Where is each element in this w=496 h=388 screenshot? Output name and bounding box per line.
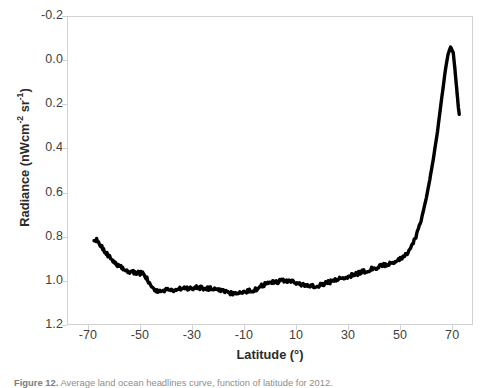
y-axis-title-end: ) [17, 88, 32, 92]
y-tick-label: 0.4 [5, 141, 63, 154]
x-tick-mark [348, 325, 349, 330]
y-tick-label: -0.2 [5, 9, 63, 22]
y-tick-label: 0.2 [5, 97, 63, 110]
y-axis-title-mid: sr [17, 100, 32, 116]
y-axis-title-main: Radiance (nWcm [17, 124, 32, 227]
x-tick-label: -50 [110, 328, 170, 342]
y-tick-label: 0.0 [5, 53, 63, 66]
y-tick-mark [62, 60, 67, 61]
x-axis-title: Latitude (°) [67, 347, 473, 362]
x-tick-mark [88, 325, 89, 330]
y-tick-mark [62, 281, 67, 282]
y-tick-mark [62, 16, 67, 17]
x-tick-mark [192, 325, 193, 330]
y-tick-mark [62, 237, 67, 238]
x-tick-mark [452, 325, 453, 330]
figure-caption-label: Figure 12. [14, 377, 58, 388]
y-tick-mark [62, 325, 67, 326]
y-tick-label: 1.0 [5, 274, 63, 287]
x-tick-mark [400, 325, 401, 330]
y-tick-label: 0.8 [5, 230, 63, 243]
y-axis-title-exponent-1: -2 [15, 116, 25, 124]
y-tick-label: 0.6 [5, 186, 63, 199]
y-axis-title-exponent-2: -1 [15, 93, 25, 101]
y-tick-mark [62, 104, 67, 105]
x-tick-label: 30 [318, 328, 378, 342]
radiance-curve-svg [68, 17, 474, 326]
x-tick-label: -70 [58, 328, 118, 342]
x-axis-tick-labels: -70-50-30-1010305070 [0, 328, 496, 348]
x-tick-label: -10 [214, 328, 274, 342]
y-tick-mark [62, 193, 67, 194]
x-tick-mark [244, 325, 245, 330]
x-tick-label: 70 [422, 328, 482, 342]
plot-area [67, 16, 473, 325]
y-axis-title: Radiance (nWcm-2 sr-1) [17, 48, 32, 268]
figure-caption: Figure 12. Average land ocean headlines … [14, 377, 484, 388]
y-tick-mark [62, 148, 67, 149]
x-tick-label: -30 [162, 328, 222, 342]
x-tick-mark [140, 325, 141, 330]
radiance-data-line [94, 47, 459, 295]
x-tick-label: 50 [370, 328, 430, 342]
figure-caption-text: Average land ocean headlines curve, func… [58, 377, 333, 388]
x-tick-mark [296, 325, 297, 330]
x-tick-label: 10 [266, 328, 326, 342]
